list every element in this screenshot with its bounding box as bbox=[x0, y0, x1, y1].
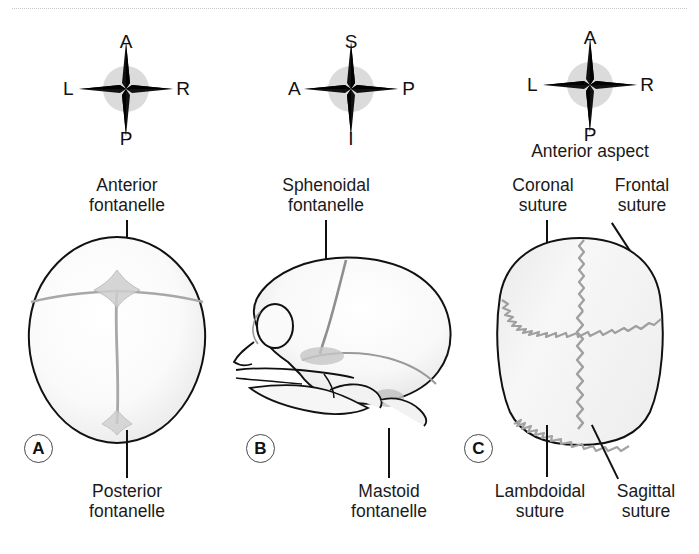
frontal-suture-label: Frontal suture bbox=[615, 175, 669, 215]
panel-badge-c: C bbox=[464, 434, 493, 463]
lambdoidal-suture-leader bbox=[546, 425, 548, 477]
anterior-aspect-caption: Anterior aspect bbox=[531, 141, 649, 162]
compass-label-west: L bbox=[527, 75, 538, 94]
compass-label-east: R bbox=[640, 75, 654, 94]
adult-skull-superior-art bbox=[480, 234, 680, 449]
sphenoidal-fontanelle-label: Sphenoidal fontanelle bbox=[282, 175, 370, 215]
compass-label-south: P bbox=[120, 129, 133, 148]
sagittal-suture-label-line2: suture bbox=[617, 501, 675, 521]
compass-rose-b: S I A P bbox=[291, 34, 411, 144]
posterior-fontanelle-leader bbox=[126, 430, 128, 478]
infant-skull-superior-art bbox=[22, 234, 212, 449]
compass-label-north: A bbox=[120, 32, 133, 51]
compass-label-north: S bbox=[345, 32, 358, 51]
posterior-fontanelle-label-line2: fontanelle bbox=[89, 501, 165, 521]
mastoid-fontanelle-label-line2: fontanelle bbox=[351, 501, 427, 521]
posterior-fontanelle-label-line1: Posterior bbox=[92, 481, 162, 501]
coronal-suture-label-line1: Coronal bbox=[512, 175, 573, 195]
sagittal-suture-label: Sagittal suture bbox=[617, 481, 675, 521]
compass-label-south: I bbox=[348, 129, 353, 148]
frontal-suture-label-line2: suture bbox=[615, 195, 669, 215]
lambdoidal-suture-label-line2: suture bbox=[495, 501, 585, 521]
compass-label-west: A bbox=[288, 79, 301, 98]
anterior-fontanelle-label: Anterior fontanelle bbox=[89, 175, 165, 215]
compass-label-west: L bbox=[63, 79, 74, 98]
coronal-suture-label: Coronal suture bbox=[512, 175, 573, 215]
coronal-suture-label-line2: suture bbox=[512, 195, 573, 215]
panel-c: A P L R Anterior aspect Coronal suture F… bbox=[466, 0, 699, 554]
panel-badge-c-letter: C bbox=[472, 439, 484, 459]
lambdoidal-suture-label-line1: Lambdoidal bbox=[495, 481, 585, 501]
mastoid-fontanelle-label-line1: Mastoid bbox=[358, 481, 419, 501]
posterior-fontanelle-label: Posterior fontanelle bbox=[89, 481, 165, 521]
anterior-fontanelle-label-line2: fontanelle bbox=[89, 195, 165, 215]
panel-b: S I A P Sphenoidal fontanelle bbox=[233, 0, 466, 554]
anterior-fontanelle-label-line1: Anterior bbox=[96, 175, 157, 195]
compass-rose-a: A P L R bbox=[66, 34, 186, 144]
frontal-suture-label-line1: Frontal bbox=[615, 175, 669, 195]
mastoid-fontanelle-leader bbox=[388, 428, 390, 478]
panel-a: A P L R Anterior fontanelle bbox=[0, 0, 233, 554]
compass-label-north: A bbox=[584, 28, 597, 47]
compass-label-east: R bbox=[176, 79, 190, 98]
infant-skull-lateral-art bbox=[230, 250, 470, 430]
lambdoidal-suture-label: Lambdoidal suture bbox=[495, 481, 585, 521]
mastoid-fontanelle-label: Mastoid fontanelle bbox=[351, 481, 427, 521]
panel-badge-b-letter: B bbox=[254, 439, 266, 459]
panel-badge-a-letter: A bbox=[32, 439, 44, 459]
anatomy-figure: A P L R Anterior fontanelle bbox=[0, 0, 699, 554]
compass-rose-c: A P L R bbox=[530, 30, 650, 140]
panel-badge-b: B bbox=[246, 434, 275, 463]
sphenoidal-fontanelle-label-line1: Sphenoidal bbox=[282, 175, 370, 195]
panel-badge-a: A bbox=[24, 434, 53, 463]
compass-label-east: P bbox=[402, 79, 415, 98]
sagittal-suture-label-line1: Sagittal bbox=[617, 481, 675, 501]
sphenoidal-fontanelle-label-line2: fontanelle bbox=[282, 195, 370, 215]
